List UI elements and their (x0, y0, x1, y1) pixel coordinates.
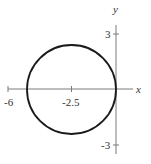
x-tick-label-minus-2-5: -2.5 (62, 96, 80, 108)
y-tick-label-3: 3 (105, 28, 111, 40)
y-axis-label: y (112, 3, 118, 15)
plot-canvas: y x -6 -2.5 3 -3 (0, 0, 151, 164)
y-tick-label-minus-3: -3 (101, 139, 111, 151)
x-axis-label: x (135, 83, 141, 95)
x-tick-label-minus-6: -6 (4, 96, 14, 108)
